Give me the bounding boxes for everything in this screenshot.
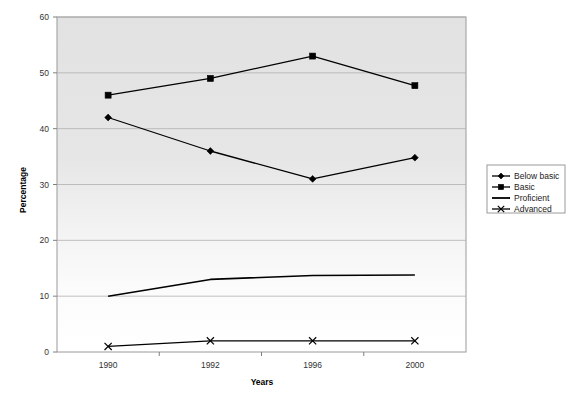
chart-container: 0102030405060 1990199219962000 Years Per… [0,0,570,399]
y-tick-label: 20 [40,235,50,245]
y-tick-label: 50 [40,68,50,78]
chart-legend: Below basicBasicProficientAdvanced [487,165,565,214]
legend-label: Basic [514,182,536,192]
y-tick-label: 40 [40,124,50,134]
x-tick-label: 2000 [405,360,424,370]
legend-label: Below basic [514,171,560,181]
legend-label: Advanced [514,204,552,214]
y-tick-label: 0 [44,347,49,357]
y-axis-title: Percentage [18,167,28,213]
x-tick-label: 1996 [303,360,322,370]
marker-square [207,75,213,81]
x-tick-label: 1990 [99,360,118,370]
x-axis-title: Years [251,377,274,387]
marker-square [498,184,503,189]
line-chart: 0102030405060 1990199219962000 Years Per… [0,0,570,399]
marker-square [310,53,316,59]
y-tick-label: 10 [40,291,50,301]
marker-square [105,92,111,98]
y-tick-label: 60 [40,12,50,22]
marker-square [412,83,418,89]
legend-label: Proficient [514,193,550,203]
y-tick-label: 30 [40,180,50,190]
x-tick-label: 1992 [201,360,220,370]
